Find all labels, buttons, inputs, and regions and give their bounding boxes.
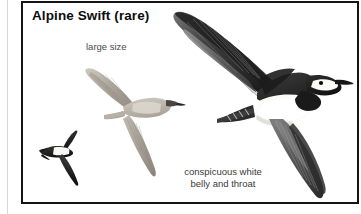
- plate-content: Alpine Swift (rare) large size conspicuo…: [23, 3, 357, 202]
- field-guide-plate: Alpine Swift (rare) large size conspicuo…: [21, 1, 359, 204]
- page-margin-rule: [7, 0, 8, 214]
- illustration-alpine-swift-large: [153, 1, 358, 204]
- page-sheet: Alpine Swift (rare) large size conspicuo…: [0, 0, 361, 214]
- page-title: Alpine Swift (rare): [32, 8, 149, 23]
- annotation-large-size: large size: [86, 41, 127, 52]
